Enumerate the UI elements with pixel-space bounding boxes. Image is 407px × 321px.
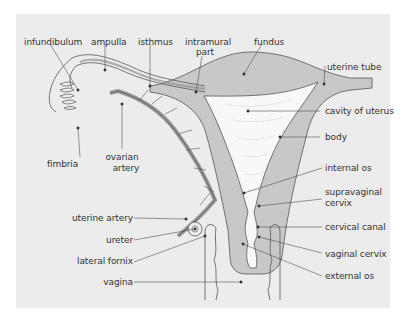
label-ampulla: ampulla bbox=[91, 37, 127, 47]
label-internal-os: internal os bbox=[325, 163, 372, 173]
label-isthmus: isthmus bbox=[138, 37, 173, 47]
label-fundus: fundus bbox=[254, 37, 284, 47]
label-intramural-part-line2: part bbox=[185, 47, 225, 57]
label-lateral-fornix: lateral fornix bbox=[40, 256, 133, 266]
label-cervical-canal: cervical canal bbox=[325, 222, 386, 232]
label-ovarian-artery-line2: artery bbox=[104, 163, 148, 173]
label-ovarian-artery-line1: ovarian bbox=[100, 152, 144, 162]
label-fimbria: fimbria bbox=[47, 159, 78, 169]
label-vagina: vagina bbox=[40, 277, 133, 287]
label-body: body bbox=[325, 132, 347, 142]
label-intramural-part-line1: intramural bbox=[185, 37, 225, 47]
label-cavity-of-uterus: cavity of uterus bbox=[325, 106, 394, 116]
label-uterine-tube: uterine tube bbox=[327, 62, 381, 72]
label-uterine-artery: uterine artery bbox=[40, 213, 133, 223]
label-external-os: external os bbox=[325, 271, 374, 281]
label-vaginal-cervix: vaginal cervix bbox=[325, 249, 387, 259]
label-infundibulum: infundibulum bbox=[24, 37, 82, 47]
label-supravaginal-cervix-line1: supravaginal bbox=[325, 187, 382, 197]
label-supravaginal-cervix-line2: cervix bbox=[325, 198, 352, 208]
label-ureter: ureter bbox=[40, 235, 133, 245]
